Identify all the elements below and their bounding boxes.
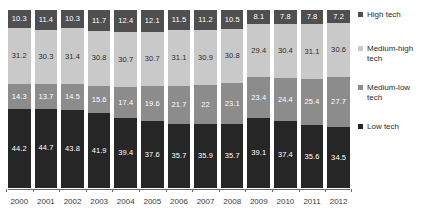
bar-segment-value: 11.2: [198, 16, 212, 24]
bar-segment: 43.8: [61, 110, 84, 188]
legend-swatch-medium-high-tech: [358, 46, 363, 51]
bar-segment-value: 23.1: [225, 100, 240, 108]
legend-item-medium-high-tech[interactable]: Medium-high tech: [358, 44, 427, 63]
bar-segment-value: 31.1: [305, 48, 320, 56]
x-axis-tick: [88, 189, 111, 193]
bar-segment-value: 30.8: [92, 54, 107, 62]
bar-segment-value: 31.1: [171, 54, 186, 62]
bar-segment-value: 22: [201, 101, 210, 109]
bar-segment-value: 21.7: [171, 101, 186, 109]
x-axis-tick: [61, 189, 84, 193]
x-axis-label: 2009: [247, 196, 270, 210]
bar-segment-value: 35.7: [171, 152, 186, 160]
bar-segment-value: 30.3: [38, 53, 53, 61]
bar-segment-value: 39.1: [251, 149, 266, 157]
bar-segment: 35.9: [194, 124, 217, 188]
bar-segment-value: 41.9: [92, 147, 107, 155]
bar-segment: 37.4: [274, 121, 297, 188]
bar-segment-value: 10.3: [65, 15, 80, 23]
bar-segment: 31.2: [8, 28, 31, 84]
bar-segment: 8.1: [247, 10, 270, 24]
bar-segment-value: 15.6: [92, 96, 107, 104]
bar-segment-value: 14.3: [12, 93, 27, 101]
legend-item-high-tech[interactable]: High tech: [358, 10, 427, 20]
bar-segment-value: 39.4: [118, 149, 133, 157]
bar-segment-value: 7.2: [333, 13, 344, 21]
x-axis-label: 2001: [35, 196, 58, 210]
bar-segment-value: 30.9: [198, 54, 213, 62]
legend-swatch-medium-low-tech: [358, 85, 363, 90]
bar-segment: 14.3: [8, 84, 31, 109]
bar-segment: 11.5: [168, 10, 191, 30]
bar-segment-value: 30.4: [278, 47, 293, 55]
bar-segment-value: 11.5: [172, 16, 186, 24]
bar-column: 11.230.92235.9: [194, 10, 217, 188]
legend-item-low-tech[interactable]: Low tech: [358, 122, 427, 132]
bar-segment: 14.5: [61, 84, 84, 110]
stacked-bar-chart: 10.331.214.344.211.430.313.744.710.331.4…: [0, 0, 432, 216]
x-axis-label: 2000: [8, 196, 31, 210]
bar-segment: 31.1: [168, 30, 191, 85]
bar-segment: 24.4: [274, 78, 297, 121]
bar-column: 12.430.717.439.4: [114, 10, 137, 188]
x-axis-label: 2011: [301, 196, 324, 210]
bar-segment: 30.6: [327, 23, 350, 77]
bar-segment: 22: [194, 85, 217, 124]
bar-segment: 30.8: [221, 29, 244, 84]
bar-segment: 37.6: [141, 121, 164, 188]
legend-label-medium-low-tech: Medium-low tech: [367, 83, 427, 102]
bar-segment-value: 7.8: [280, 13, 291, 21]
bar-segment-value: 30.7: [145, 55, 160, 63]
bar-segment-value: 11.4: [39, 16, 53, 24]
x-axis-labels: 2000200120022003200420052006200720082009…: [8, 196, 350, 210]
bar-segment: 39.4: [114, 118, 137, 188]
x-axis-label: 2004: [114, 196, 137, 210]
x-axis-label: 2008: [221, 196, 244, 210]
bar-column: 8.129.423.439.1: [247, 10, 270, 188]
bar-segment: 30.3: [35, 30, 58, 84]
bar-segment-value: 37.4: [278, 151, 293, 159]
x-axis-tick: [247, 189, 270, 193]
x-axis-tick: [274, 189, 297, 193]
bar-segment-value: 8.1: [253, 13, 264, 21]
bar-segment: 19.6: [141, 86, 164, 121]
bar-segment-value: 23.4: [251, 94, 266, 102]
legend-label-medium-high-tech: Medium-high tech: [367, 44, 427, 63]
bar-segment-value: 35.6: [305, 153, 320, 161]
x-axis-label: 2012: [327, 196, 350, 210]
bar-segment: 7.2: [327, 10, 350, 23]
bar-segment: 15.6: [88, 86, 111, 114]
bar-segment: 31.4: [61, 28, 84, 84]
bar-segment-value: 31.4: [65, 53, 80, 61]
bar-column: 11.730.815.641.9: [88, 10, 111, 188]
bar-segment-value: 34.5: [331, 154, 346, 162]
bar-segment-value: 44.7: [38, 144, 53, 152]
bar-segment-value: 35.7: [225, 152, 240, 160]
bar-segment-value: 30.6: [331, 46, 346, 54]
bar-column: 11.531.121.735.7: [168, 10, 191, 188]
bar-segment: 12.4: [114, 10, 137, 32]
legend-swatch-low-tech: [358, 124, 363, 129]
bar-segment-value: 27.7: [331, 98, 346, 106]
x-axis-tick: [221, 189, 244, 193]
legend-label-high-tech: High tech: [367, 10, 427, 20]
bar-segment-value: 10.5: [225, 16, 240, 24]
x-axis-tick: [327, 189, 350, 193]
bar-segment-value: 17.4: [118, 99, 133, 107]
x-axis-tick: [35, 189, 58, 193]
bar-segment-value: 30.7: [118, 56, 133, 64]
bar-segment: 11.7: [88, 10, 111, 31]
x-axis-label: 2005: [141, 196, 164, 210]
bar-segment: 34.5: [327, 127, 350, 188]
bar-segment: 7.8: [301, 10, 324, 24]
bar-segment: 17.4: [114, 87, 137, 118]
bar-segment-value: 25.4: [305, 98, 320, 106]
legend-item-medium-low-tech[interactable]: Medium-low tech: [358, 83, 427, 102]
bar-segment-value: 35.9: [198, 152, 213, 160]
x-axis-tick: [301, 189, 324, 193]
bar-segment: 31.1: [301, 24, 324, 79]
bar-column: 7.830.424.437.4: [274, 10, 297, 188]
bar-column: 11.430.313.744.7: [35, 10, 58, 188]
bar-segment: 29.4: [247, 24, 270, 76]
x-axis-tick: [114, 189, 137, 193]
